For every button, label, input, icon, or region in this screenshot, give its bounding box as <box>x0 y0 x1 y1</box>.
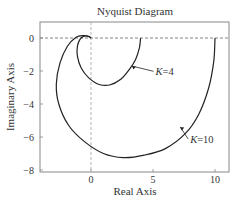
y-tick-label: −6 <box>23 132 34 143</box>
nyquist-curve-k4 <box>77 36 141 85</box>
chart-canvas: Nyquist Diagram 05100−2−4−6−8 K=4K=10 Re… <box>0 0 245 206</box>
x-tick-label: 0 <box>89 174 94 185</box>
y-tick-label: −4 <box>23 99 34 110</box>
x-tick-label: 5 <box>151 174 156 185</box>
annotation-label-k10: K=10 <box>189 134 213 145</box>
curve-annotations: K=4K=10 <box>132 66 214 145</box>
y-tick-label: 0 <box>29 33 34 44</box>
y-axis-label: Imaginary Axis <box>4 63 16 131</box>
axis-ticks: 05100−2−4−6−8 <box>23 33 220 186</box>
x-axis-label: Real Axis <box>113 185 156 197</box>
y-tick-label: −2 <box>23 66 34 77</box>
y-tick-label: −8 <box>23 165 34 176</box>
arrow-head-icon <box>132 66 136 70</box>
x-tick-label: 10 <box>210 174 220 185</box>
annotation-label-k4: K=4 <box>154 66 174 77</box>
nyquist-chart: Nyquist Diagram 05100−2−4−6−8 K=4K=10 Re… <box>0 0 245 206</box>
chart-title: Nyquist Diagram <box>97 5 174 17</box>
